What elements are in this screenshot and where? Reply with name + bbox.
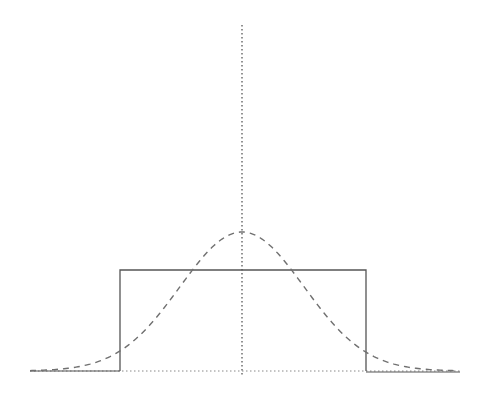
distribution-diagram [0, 0, 482, 401]
background [0, 0, 482, 401]
